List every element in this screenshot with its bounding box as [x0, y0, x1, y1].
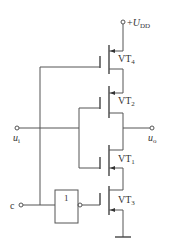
- vt3-label: VT3: [118, 194, 135, 207]
- transistor-vt1: VT1: [100, 145, 135, 176]
- arrow-icon: [110, 91, 115, 95]
- transistor-vt3: VT3: [100, 186, 135, 215]
- arrow-icon: [110, 49, 115, 53]
- circuit-diagram: +UDD VT4 VT2 ui uo VT1: [0, 0, 169, 252]
- output-label: uo: [148, 132, 157, 145]
- vt4-label: VT4: [118, 53, 135, 66]
- transistor-vt4: VT4: [100, 45, 135, 74]
- input-terminal: [15, 126, 19, 130]
- output-terminal: [150, 126, 154, 130]
- transistor-vt2: VT2: [100, 86, 135, 118]
- arrow-icon: [110, 208, 115, 212]
- vt2-label: VT2: [118, 95, 135, 108]
- arrow-icon: [110, 166, 115, 170]
- inverter-bubble-icon: [78, 203, 82, 207]
- supply-terminal: [121, 20, 125, 24]
- inverter-label: 1: [64, 193, 69, 203]
- supply-label: +UDD: [127, 17, 150, 30]
- control-label: c: [10, 200, 15, 211]
- input-label: ui: [13, 132, 20, 145]
- control-terminal: [19, 203, 23, 207]
- vt1-label: VT1: [118, 153, 135, 166]
